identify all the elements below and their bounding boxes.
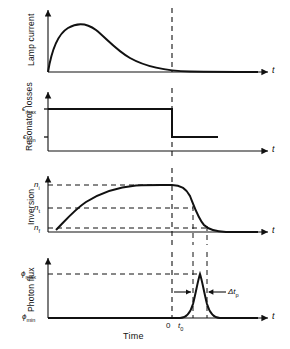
figure-canvas — [0, 0, 290, 349]
panel-photon-flux — [48, 252, 268, 318]
time-origin-label: 0 — [166, 321, 170, 330]
eps-min-label: ϵmin — [23, 132, 36, 143]
photon-flux-x-label: t — [272, 311, 275, 321]
pulse-width-label: Δtp — [228, 287, 239, 298]
panel-lamp-current — [48, 8, 268, 72]
lamp-current-y-label: Lamp current — [26, 14, 36, 66]
panel-inversion — [48, 168, 268, 245]
phi-min-label: ϕmin — [22, 312, 35, 323]
resonator-losses-x-label: t — [272, 144, 275, 154]
eps-max-label: ϵmax — [22, 104, 36, 115]
inversion-x-label: t — [272, 225, 275, 235]
photon-flux-curve — [48, 274, 258, 318]
phi-max-label: ϕmax — [21, 269, 36, 280]
n-t-label: nt — [34, 203, 40, 214]
resonator-losses-curve — [48, 109, 218, 137]
lamp-current-curve — [48, 24, 258, 72]
n-i-label: ni — [34, 180, 40, 191]
n-f-label: nf — [34, 223, 40, 234]
panel-resonator-losses — [44, 88, 268, 160]
figure-caption: Time — [123, 331, 144, 341]
switch-time-label: t0 — [178, 321, 183, 332]
lamp-current-x-label: t — [272, 65, 275, 75]
qswitch-timing-figure: Lamp current Resonator losses Inversion … — [0, 0, 290, 349]
